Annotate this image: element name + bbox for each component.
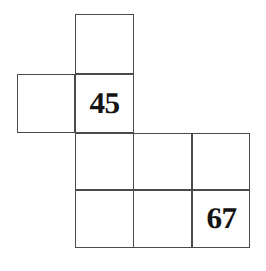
net-cell-right-upper-face [192, 133, 250, 190]
net-cell-top-face [75, 14, 134, 74]
net-cell-middle-face [75, 133, 134, 190]
net-cell-inner-bridge-lower [133, 190, 192, 248]
net-cell-left-face [17, 74, 75, 133]
net-cell-inner-bridge-upper [133, 133, 192, 190]
net-cell-bottom-face [75, 190, 134, 248]
net-cell-label: 67 [206, 204, 236, 234]
net-cell-right-lower-face-67: 67 [192, 190, 250, 248]
net-cell-label: 45 [89, 89, 119, 119]
cube-net-figure: 4567 [0, 0, 266, 271]
net-cell-center-face-45: 45 [75, 74, 134, 133]
